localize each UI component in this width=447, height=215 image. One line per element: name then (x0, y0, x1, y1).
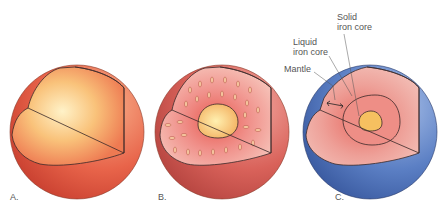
liquid-core-label-2: iron core (293, 47, 328, 57)
panel-b-sphere (155, 65, 289, 199)
panel-label-a: A. (10, 192, 19, 202)
liquid-core-label-1: Liquid (293, 37, 317, 47)
panel-c-sphere (303, 34, 437, 199)
panel-label-b: B. (158, 192, 167, 202)
mantle-label: Mantle (284, 64, 311, 74)
panel-label-c: C. (335, 192, 344, 202)
solid-core-label-1: Solid (337, 12, 357, 22)
solid-core-label-2: iron core (337, 22, 372, 32)
panel-a-sphere (10, 65, 144, 199)
earth-differentiation-diagram: A. B. Solid iron core Liquid i (0, 0, 447, 215)
